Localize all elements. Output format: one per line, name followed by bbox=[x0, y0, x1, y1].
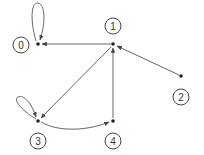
node-0-label: 0 bbox=[13, 37, 29, 53]
node-0-dot bbox=[36, 42, 40, 46]
edge-2-1 bbox=[117, 46, 179, 75]
node-4-label: 4 bbox=[105, 133, 121, 149]
node-3-dot bbox=[36, 119, 40, 123]
node-4-dot bbox=[111, 119, 115, 123]
node-1-dot bbox=[111, 42, 115, 46]
edge-3-3-self-loop bbox=[16, 96, 36, 119]
svg-text:4: 4 bbox=[110, 136, 116, 147]
svg-text:2: 2 bbox=[178, 92, 184, 103]
edge-3-4 bbox=[41, 122, 109, 129]
graph-canvas: 0 1 2 3 4 bbox=[0, 0, 204, 155]
edge-1-3 bbox=[41, 47, 111, 118]
edge-0-0-self-loop bbox=[32, 3, 44, 41]
svg-text:3: 3 bbox=[35, 136, 41, 147]
node-3-label: 3 bbox=[30, 133, 46, 149]
svg-text:1: 1 bbox=[110, 21, 116, 32]
node-2-dot bbox=[179, 74, 183, 78]
node-2-label: 2 bbox=[173, 89, 189, 105]
node-1-label: 1 bbox=[105, 18, 121, 34]
svg-text:0: 0 bbox=[18, 40, 24, 51]
